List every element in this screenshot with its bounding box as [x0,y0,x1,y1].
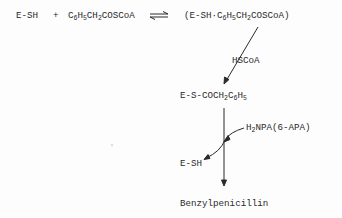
reaction-scheme: E-SH + C6H5CH2COSCoA (E-SH·C6H5CH2COSCoA… [0,0,342,218]
speck [111,144,112,145]
equilibrium-arrow-icon [150,12,168,20]
diagonal-arrow-icon [224,27,258,84]
vertical-arrow-icon [222,108,227,186]
arrows-layer [0,0,342,218]
